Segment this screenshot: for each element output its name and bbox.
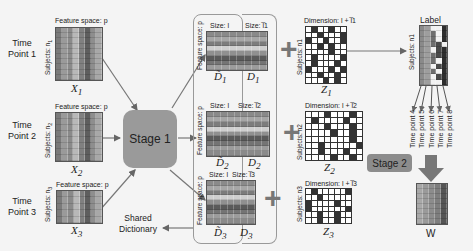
plus-icon-3: + [264,183,282,213]
d2-feature-label: Feature space: p [196,106,203,155]
x2-matrix [55,112,103,162]
d1-feature-label: Feature space: p [196,21,203,70]
z3-label: Z3 [323,225,334,240]
d1-matrix [206,31,268,71]
x1-matrix [55,27,103,81]
d3-matrix [206,180,256,225]
time-point-3-label: Time Point 3 [0,196,44,218]
d3-size-shared: Size: l [209,171,228,178]
z2-label: Z2 [324,161,335,176]
z1-dimension-label: Dimension: l + l̅1 [304,17,356,24]
z1-matrix [305,26,347,84]
shared-dictionary-label: Shared Dictionary [112,213,164,235]
d1-specific-label: D1 [247,70,260,85]
output-time-point-4: Time point 4 [409,110,416,148]
x2-subjects-label: Subjects: n2 [44,123,53,158]
stage-2-box: Stage 2 [367,154,412,172]
d2-matrix [206,111,270,157]
plus-icon-1: + [280,34,298,64]
w-matrix [416,183,448,225]
d1-size-specific: Size: l̅1 [245,22,268,29]
z2-dimension-label: Dimension: l + l̅2 [305,102,357,109]
label-matrix [419,25,448,86]
x1-label: X1 [71,82,82,97]
x3-subjects-label: Subjects: n3 [44,187,53,222]
output-time-point-5: Time point 5 [418,110,425,148]
z3-dimension-label: Dimension: l + l̅3 [305,180,357,187]
label-subjects: Subjects: n1 [408,34,415,70]
d3-shared-label: D̃3 [214,226,227,241]
z2-subjects-label: Subjects: n2 [296,124,303,160]
z1-label: Z1 [321,83,332,98]
output-time-point-8: Time point 8 [446,110,453,148]
d3-specific-label: D3 [240,226,253,241]
z3-subjects-label: Subjects: n3 [296,186,303,222]
time-point-2-label: Time Point 2 [0,120,44,142]
x3-feature-space-label: Feature space: p [56,181,109,188]
x2-feature-space-label: Feature space: p [55,103,108,110]
z3-matrix [305,188,352,224]
x1-feature-space-label: Feature space: p [55,17,108,24]
label-title: Label [420,15,441,25]
d2-size-shared: Size: l [210,102,229,109]
x3-matrix [56,190,103,224]
d1-shared-label: D̃1 [214,70,227,85]
z2-matrix [305,111,363,161]
x3-label: X3 [71,224,82,239]
output-time-point-7: Time point 7 [437,110,444,148]
d3-feature-label: Feature space: p [196,176,203,225]
z1-subjects-label: Subjects: n1 [296,39,303,75]
d3-size-specific: Size: l̅3 [232,171,255,178]
d2-shared-label: D̃2 [216,156,229,171]
stage-1-box: Stage 1 [123,110,177,168]
d2-size-specific: Size: l̅2 [238,102,261,109]
d2-specific-label: D2 [248,156,261,171]
output-time-point-6: Time point 6 [428,110,435,148]
x2-label: X2 [71,163,82,178]
time-point-1-label: Time Point 1 [0,38,44,60]
x1-subjects-label: Subjects: n1 [44,40,53,75]
w-label: W [426,228,435,239]
d1-size-shared: Size: l [210,22,229,29]
